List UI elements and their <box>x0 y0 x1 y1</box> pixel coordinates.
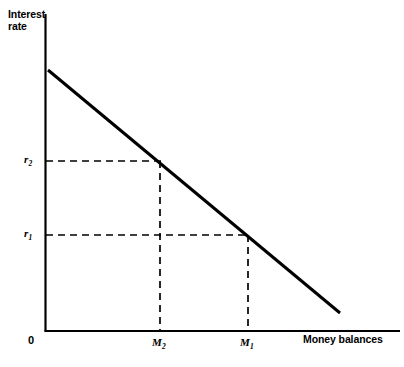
x-tick-m1-letter: M <box>240 336 250 348</box>
y-axis-title: Interest rate <box>8 9 45 33</box>
x-tick-label-m2: M2 <box>152 336 166 348</box>
x-tick-m1-subscript: 1 <box>250 342 254 351</box>
x-tick-label-m1: M1 <box>240 336 254 348</box>
money-demand-curve <box>48 70 340 313</box>
y-axis-title-line1: Interest <box>8 9 45 21</box>
y-tick-r1-subscript: 1 <box>29 233 33 242</box>
origin-label: 0 <box>28 334 34 346</box>
x-tick-m2-subscript: 2 <box>162 342 166 351</box>
x-tick-m2-letter: M <box>152 336 162 348</box>
y-tick-r2-subscript: 2 <box>29 159 33 168</box>
y-tick-r1-letter: r <box>24 227 28 239</box>
chart-canvas <box>0 0 404 367</box>
y-tick-label-r2: r2 <box>24 153 32 165</box>
y-axis-title-line2: rate <box>8 21 45 33</box>
y-tick-label-r1: r1 <box>24 227 32 239</box>
y-tick-r2-letter: r <box>24 153 28 165</box>
x-axis-title: Money balances <box>303 334 383 346</box>
money-demand-chart: Interest rate Money balances 0 r2 r1 M2 … <box>0 0 404 367</box>
